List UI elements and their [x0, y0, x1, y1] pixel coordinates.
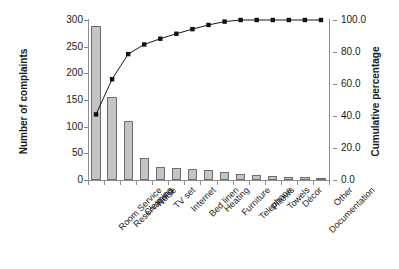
- x-axis-category-labels: Room ServiceReservationsCleaningNoiseTV …: [0, 0, 399, 269]
- x-axis-tick-mark: [136, 181, 137, 185]
- x-axis-tick-mark: [168, 181, 169, 185]
- x-axis-tick-mark: [200, 181, 201, 185]
- x-axis-tick-mark: [184, 181, 185, 185]
- x-axis-tick-mark: [297, 181, 298, 185]
- x-axis-tick-mark: [233, 181, 234, 185]
- x-axis-tick-mark: [104, 181, 105, 185]
- x-axis-tick-mark: [152, 181, 153, 185]
- x-axis-tick-mark: [217, 181, 218, 185]
- x-axis-tick-mark: [265, 181, 266, 185]
- x-axis-tick-mark: [329, 181, 330, 185]
- x-axis-tick-mark: [281, 181, 282, 185]
- pareto-chart: Number of complaints Cumulative percenta…: [0, 0, 399, 269]
- x-axis-tick-mark: [249, 181, 250, 185]
- x-axis-tick-mark: [88, 181, 89, 185]
- x-axis-tick-mark: [120, 181, 121, 185]
- x-axis-tick-mark: [313, 181, 314, 185]
